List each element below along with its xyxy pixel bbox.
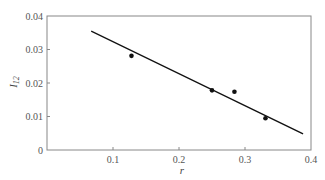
y-axis-label: I12: [7, 76, 21, 89]
x-axis-label: r: [180, 164, 185, 176]
x-tick-label: 0.3: [239, 154, 252, 165]
y-tick-label: 0.03: [26, 44, 44, 55]
y-axis: 00.010.020.030.04: [26, 11, 51, 156]
x-tick-label: 0.4: [305, 154, 318, 165]
y-tick-label: 0: [38, 145, 43, 156]
chart: 00.010.020.030.04 0.10.20.30.4 r I12: [0, 0, 325, 180]
data-point: [129, 54, 134, 59]
y-tick-label: 0.04: [26, 11, 44, 22]
fit-line: [91, 31, 303, 134]
plot-frame: [47, 16, 311, 150]
y-tick-label: 0.01: [26, 111, 44, 122]
plot-border: [47, 16, 311, 150]
x-tick-label: 0.1: [107, 154, 120, 165]
y-tick-label: 0.02: [26, 78, 44, 89]
y-axis-label-subscript: 12: [12, 76, 21, 84]
data-point: [232, 89, 237, 94]
plot-area: [91, 31, 303, 134]
